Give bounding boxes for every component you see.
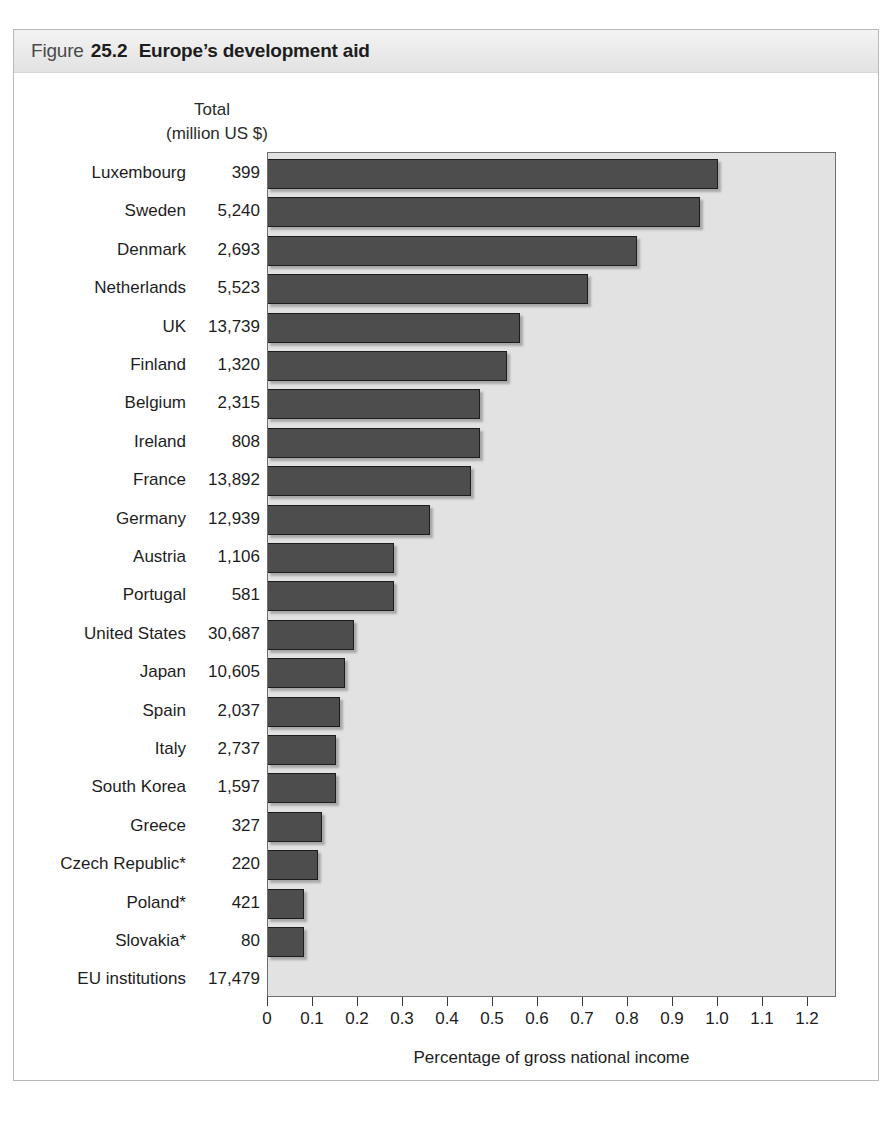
bar	[267, 428, 480, 458]
total-column-heading: Total (million US $)	[20, 98, 268, 146]
category-row: Greece327	[20, 807, 260, 845]
category-row: Netherlands5,523	[20, 269, 260, 307]
category-row: Spain2,037	[20, 692, 260, 730]
x-axis: 00.10.20.30.40.50.60.70.80.91.01.11.2	[267, 997, 836, 1007]
x-axis-tick-label: 0	[262, 1009, 271, 1029]
x-axis-tick-label: 1.0	[705, 1009, 729, 1029]
bar	[267, 351, 507, 381]
bar	[267, 889, 304, 919]
bar	[267, 658, 345, 688]
bar	[267, 159, 718, 189]
figure-title: Europe’s development aid	[139, 40, 370, 62]
bar-row	[268, 462, 835, 500]
x-axis-tick-label: 0.7	[570, 1009, 594, 1029]
category-label: Portugal	[123, 585, 186, 605]
bar-row	[268, 769, 835, 807]
x-axis-tick	[492, 997, 493, 1006]
total-value: 2,737	[186, 739, 260, 759]
bar	[267, 543, 394, 573]
category-row: Slovakia*80	[20, 922, 260, 960]
total-value: 30,687	[186, 624, 260, 644]
figure-label-word: Figure	[31, 40, 84, 62]
category-label: Slovakia*	[115, 931, 186, 951]
bar	[267, 735, 336, 765]
bar-row	[268, 961, 835, 997]
x-axis-tick	[807, 997, 808, 1006]
x-axis-tick	[537, 997, 538, 1006]
x-axis-tick-label: 1.1	[750, 1009, 774, 1029]
total-value: 327	[186, 816, 260, 836]
total-value: 5,240	[186, 201, 260, 221]
bar	[267, 581, 394, 611]
x-axis-title: Percentage of gross national income	[267, 1048, 836, 1068]
category-label: Spain	[143, 701, 186, 721]
figure-number: 25.2	[91, 40, 128, 62]
x-axis-tick-label: 0.8	[615, 1009, 639, 1029]
x-axis-tick-label: 0.2	[345, 1009, 369, 1029]
x-axis-tick	[312, 997, 313, 1006]
bar-row	[268, 347, 835, 385]
bar-row	[268, 846, 835, 884]
bar-row	[268, 385, 835, 423]
total-value: 5,523	[186, 278, 260, 298]
bar-row	[268, 424, 835, 462]
category-label: Poland*	[126, 893, 186, 913]
total-heading-line1: Total	[20, 98, 268, 122]
category-label: Japan	[140, 662, 186, 682]
total-value: 17,479	[186, 969, 260, 989]
x-axis-tick-label: 0.3	[390, 1009, 414, 1029]
category-label: Ireland	[134, 432, 186, 452]
category-row: Germany12,939	[20, 500, 260, 538]
category-row: Portugal581	[20, 576, 260, 614]
category-row: Czech Republic*220	[20, 845, 260, 883]
bar	[267, 313, 520, 343]
figure-header: Figure 25.2 Europe’s development aid	[14, 30, 878, 73]
category-row: EU institutions17,479	[20, 960, 260, 998]
total-value: 13,739	[186, 317, 260, 337]
category-label: France	[133, 470, 186, 490]
category-row: South Korea1,597	[20, 768, 260, 806]
total-value: 220	[186, 854, 260, 874]
category-label: Austria	[133, 547, 186, 567]
category-label: Belgium	[125, 393, 186, 413]
total-value: 808	[186, 432, 260, 452]
category-row: Austria1,106	[20, 538, 260, 576]
total-heading-line2: (million US $)	[20, 122, 268, 146]
total-value: 2,037	[186, 701, 260, 721]
category-row: Luxembourg399	[20, 154, 260, 192]
bar-row	[268, 616, 835, 654]
category-row: Denmark2,693	[20, 231, 260, 269]
category-row: Japan10,605	[20, 653, 260, 691]
bar	[267, 773, 336, 803]
category-label: United States	[84, 624, 186, 644]
x-axis-tick-label: 0.9	[660, 1009, 684, 1029]
total-value: 399	[186, 163, 260, 183]
x-axis-tick-label: 0.6	[525, 1009, 549, 1029]
category-label: Germany	[116, 509, 186, 529]
bar	[267, 620, 354, 650]
category-label: Italy	[155, 739, 186, 759]
category-row: United States30,687	[20, 615, 260, 653]
total-value: 80	[186, 931, 260, 951]
bar	[267, 697, 340, 727]
category-row: Poland*421	[20, 884, 260, 922]
total-value: 1,106	[186, 547, 260, 567]
bar-row	[268, 501, 835, 539]
bar	[267, 505, 430, 535]
category-label: UK	[162, 317, 186, 337]
x-axis-tick-label: 0.4	[435, 1009, 459, 1029]
x-axis-tick	[717, 997, 718, 1006]
bar-row	[268, 885, 835, 923]
bar	[267, 927, 304, 957]
total-value: 581	[186, 585, 260, 605]
total-value: 12,939	[186, 509, 260, 529]
total-value: 2,693	[186, 240, 260, 260]
x-axis-tick	[582, 997, 583, 1006]
bar	[267, 812, 322, 842]
x-axis-tick	[672, 997, 673, 1006]
category-label: South Korea	[91, 777, 186, 797]
x-axis-tick	[762, 997, 763, 1006]
bar	[267, 274, 588, 304]
bar-row	[268, 731, 835, 769]
bar-row	[268, 577, 835, 615]
